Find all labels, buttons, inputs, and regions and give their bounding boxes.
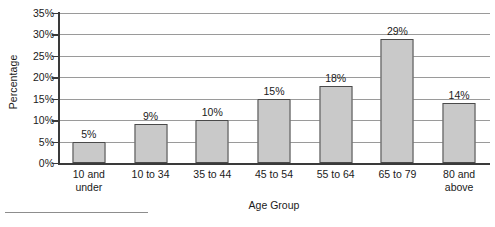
- bar: [443, 103, 476, 163]
- bar-group: 5%: [58, 13, 120, 163]
- bar: [196, 120, 229, 163]
- x-axis-tick-label: 65 to 79: [367, 168, 429, 181]
- x-axis-tick-label: 35 to 44: [181, 168, 243, 181]
- y-axis-tick-label: 15%: [18, 94, 54, 104]
- y-axis-tick-label: 35%: [18, 8, 54, 18]
- y-axis-tick-label: 25%: [18, 51, 54, 61]
- y-axis-tick-label: 0%: [18, 158, 54, 168]
- x-axis-tick-label-line: 10 to 34: [120, 168, 182, 181]
- bar-group: 18%: [305, 13, 367, 163]
- x-axis-tick-label-line: 55 to 64: [305, 168, 367, 181]
- bar-group: 9%: [120, 13, 182, 163]
- bar: [134, 124, 167, 163]
- bar-group: 29%: [367, 13, 429, 163]
- x-axis-tick-label: 10 to 34: [120, 168, 182, 181]
- x-axis-tick-label-line: 65 to 79: [367, 168, 429, 181]
- bar-group: 15%: [243, 13, 305, 163]
- bar-series: 5%9%10%15%18%29%14%: [58, 13, 490, 163]
- footer-rule: [5, 212, 148, 213]
- x-axis-tick-label-line: 45 to 54: [243, 168, 305, 181]
- x-axis-tick-label: 10 andunder: [58, 168, 120, 193]
- bar: [319, 86, 352, 163]
- y-axis-tick-label: 30%: [18, 29, 54, 39]
- x-axis-tick-label: 55 to 64: [305, 168, 367, 181]
- bar-value-label: 9%: [143, 111, 158, 122]
- x-axis-tick-label-line: 35 to 44: [181, 168, 243, 181]
- bar-group: 10%: [181, 13, 243, 163]
- x-axis-tick-label: 80 andabove: [428, 168, 490, 193]
- x-axis-tick-label-line: 80 and: [428, 168, 490, 181]
- x-axis-tick-label-line: above: [428, 181, 490, 194]
- bar-value-label: 29%: [387, 26, 408, 37]
- bar-value-label: 10%: [202, 107, 223, 118]
- bar-group: 14%: [428, 13, 490, 163]
- x-axis-tick-label: 45 to 54: [243, 168, 305, 181]
- bar: [257, 99, 290, 163]
- y-axis-tick-label: 20%: [18, 72, 54, 82]
- bar-value-label: 14%: [449, 90, 470, 101]
- y-axis-tick-label: 5%: [18, 137, 54, 147]
- bar-value-label: 5%: [81, 129, 96, 140]
- x-axis-tick-label-line: 10 and: [58, 168, 120, 181]
- bar-chart: Percentage 0%5%10%15%20%25%30%35% 5%9%10…: [0, 0, 495, 227]
- x-axis-tick-labels: 10 andunder10 to 3435 to 4445 to 5455 to…: [58, 168, 490, 202]
- x-axis-line: [58, 163, 490, 165]
- bar-value-label: 18%: [325, 73, 346, 84]
- bar-value-label: 15%: [263, 86, 284, 97]
- x-axis-tick-label-line: under: [58, 181, 120, 194]
- y-axis-tick-label: 10%: [18, 115, 54, 125]
- y-axis-tick-labels: 0%5%10%15%20%25%30%35%: [18, 0, 54, 170]
- bar: [72, 142, 105, 163]
- x-axis-title: Age Group: [58, 199, 490, 211]
- bar: [381, 39, 414, 163]
